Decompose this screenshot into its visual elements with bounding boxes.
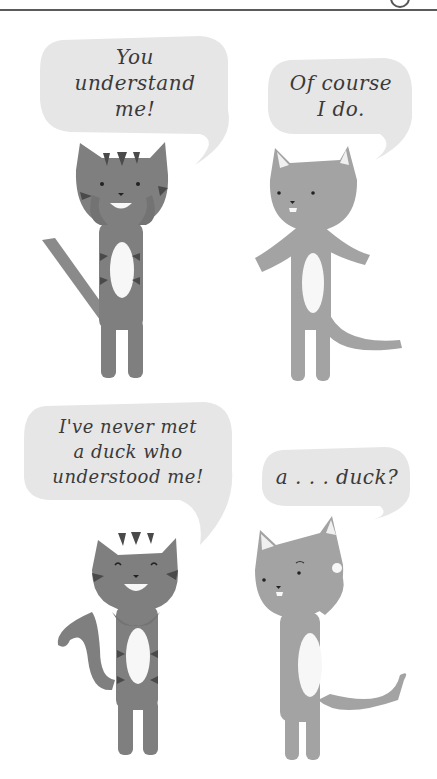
speech-text-4: a . . . duck? [264, 464, 410, 490]
speech-text-1: You understand me! [50, 44, 220, 122]
gray-cat-4 [255, 516, 406, 760]
tabby-cat-3 [58, 532, 178, 755]
gray-cat-2 [255, 146, 402, 381]
tabby-cat-1 [42, 142, 168, 378]
speech-text-3: I've never met a duck who understood me! [26, 414, 230, 489]
speech-text-2: Of course I do. [272, 70, 410, 122]
